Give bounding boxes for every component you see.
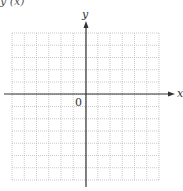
x-axis-label: x: [177, 87, 183, 100]
y-axis-label: y: [82, 8, 88, 21]
origin-label: 0: [75, 96, 82, 109]
x-axis-arrow-icon: [168, 92, 175, 97]
y-axis-arrow-icon: [84, 21, 89, 28]
coordinate-grid: [0, 0, 183, 191]
